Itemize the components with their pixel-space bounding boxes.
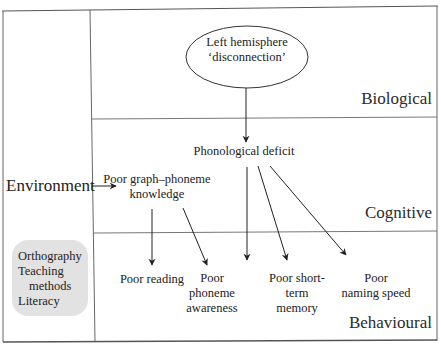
separator-cognitive-behavioural [94, 231, 437, 233]
phoneme-awareness-line1: Poor [186, 271, 237, 286]
phoneme-awareness-node: Poor phoneme awareness [186, 271, 237, 316]
factor-methods: methods [29, 279, 71, 294]
poor-reading-node: Poor reading [120, 272, 184, 287]
arrow-graph-phoneme-to-phoneme-awareness [183, 208, 207, 265]
factor-teaching: Teaching [18, 264, 64, 279]
short-term-memory-node: Poor short- term memory [269, 271, 325, 316]
graph-phoneme-line1: Poor graph–phoneme [103, 172, 210, 187]
short-term-memory-line2: term [269, 286, 325, 301]
level-label-behavioural: Behavioural [349, 313, 432, 333]
short-term-memory-line3: memory [269, 301, 325, 316]
level-label-cognitive: Cognitive [365, 203, 432, 223]
naming-speed-line2: naming speed [341, 286, 410, 301]
phonological-deficit-node: Phonological deficit [193, 144, 294, 159]
factor-orthography: Orthography [18, 249, 82, 264]
short-term-memory-line1: Poor short- [269, 271, 325, 286]
separator-biological-cognitive [92, 117, 437, 119]
biological-cause-node: Left hemisphere ‘disconnection’ [206, 35, 288, 65]
factor-literacy: Literacy [18, 294, 60, 309]
level-label-biological: Biological [361, 89, 432, 109]
phoneme-awareness-line2: phoneme [186, 286, 237, 301]
naming-speed-line1: Poor [341, 271, 410, 286]
graph-phoneme-line2: knowledge [103, 187, 210, 202]
naming-speed-node: Poor naming speed [341, 271, 410, 301]
biological-cause-line2: ‘disconnection’ [206, 50, 288, 65]
biological-cause-line1: Left hemisphere [206, 35, 288, 50]
environment-factors-box: Orthography Teaching methods Literacy [12, 240, 88, 316]
diagram-canvas: Left hemisphere ‘disconnection’ Biologic… [0, 0, 441, 345]
phoneme-awareness-line3: awareness [186, 301, 237, 316]
graph-phoneme-node: Poor graph–phoneme knowledge [103, 172, 210, 202]
environment-label: Environment [6, 176, 95, 196]
